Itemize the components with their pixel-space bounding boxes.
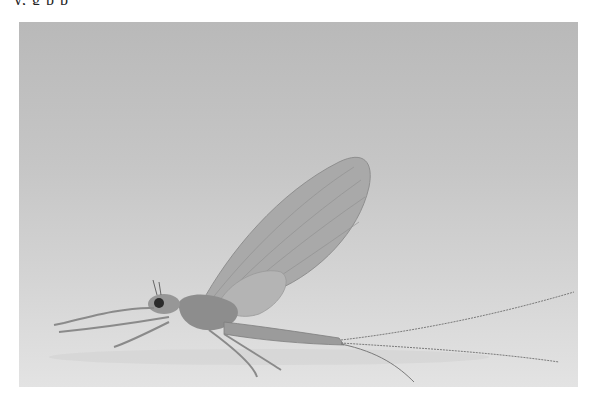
eye <box>154 298 164 308</box>
tail-filaments <box>341 292 574 382</box>
legs <box>54 308 281 377</box>
mayfly-illustration <box>19 22 578 387</box>
clipped-caption-text: y, g p p <box>14 0 574 5</box>
head <box>148 294 180 314</box>
mayfly-photo <box>19 22 578 387</box>
abdomen <box>224 322 344 345</box>
